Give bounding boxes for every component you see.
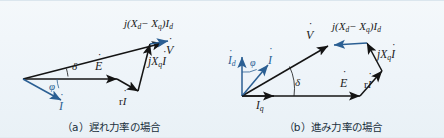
label-jxd-minus-xq-id: j(Xd− Xq)Id <box>124 18 173 31</box>
label-r-i: rI <box>364 79 371 90</box>
label-i-d: Id <box>228 55 236 68</box>
label-i: I <box>268 54 272 66</box>
vector-jxd-xq-id <box>334 43 367 45</box>
vector-r-i <box>117 79 138 91</box>
angle-arc-phi <box>242 70 257 73</box>
phasor-diagram-panel-a: V E I rI jXqI j(Xd− Xq)Id δ φ （a）遅れ力率の場合 <box>0 1 222 138</box>
vector-i <box>23 79 61 100</box>
phasor-diagram-figure: V E I rI jXqI j(Xd− Xq)Id δ φ （a）遅れ力率の場合 <box>0 0 444 138</box>
label-angle-phi: φ <box>49 81 55 92</box>
angle-arc-delta <box>290 67 295 97</box>
panel-a-vector-canvas <box>0 1 222 138</box>
label-jxq-i: jXqI <box>148 56 166 69</box>
label-angle-phi: φ <box>250 58 256 68</box>
caption-panel-a: （a）遅れ力率の場合 <box>0 119 222 134</box>
angle-arc-delta <box>66 69 68 77</box>
label-v: V <box>166 44 173 56</box>
label-i-q: Iq <box>256 100 264 113</box>
vector-v <box>242 46 328 96</box>
caption-panel-b: （b）進み力率の場合 <box>222 119 444 134</box>
label-r-i: rI <box>119 96 126 107</box>
label-i: I <box>59 100 63 112</box>
angle-arc-phi <box>57 79 59 88</box>
label-e: E <box>95 60 102 72</box>
label-e: E <box>340 77 347 89</box>
label-jxd-minus-xq-id: j(Xd− Xq)Id <box>332 21 381 34</box>
label-angle-delta: δ <box>295 77 300 88</box>
label-angle-delta: δ <box>72 61 77 72</box>
phasor-diagram-panel-b: V E I Id Iq rI jXqI j(Xd− Xq)Id δ φ （ <box>222 1 444 138</box>
vector-i <box>242 65 268 96</box>
label-jxq-i: jXqI <box>377 49 395 62</box>
label-v: V <box>306 29 313 41</box>
